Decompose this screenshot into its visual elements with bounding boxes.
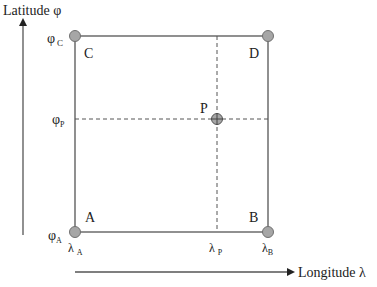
node-d: [263, 31, 274, 42]
phi-a: φA: [48, 228, 62, 245]
lambda-p: λP: [209, 241, 223, 257]
label-p: P: [200, 101, 208, 116]
y-axis-label: Latitude φ: [3, 3, 61, 18]
node-a: [70, 227, 81, 238]
label-a: A: [85, 210, 96, 225]
grid-cell: [75, 36, 268, 232]
label-d: D: [249, 46, 259, 61]
label-c: C: [84, 46, 93, 61]
x-axis-label: Longitude λ: [298, 265, 366, 280]
node-b: [263, 227, 274, 238]
node-c: [70, 31, 81, 42]
lambda-b: λB: [262, 241, 273, 257]
bilinear-interpolation-diagram: Latitude φ Longitude λ C D A B P φC φP φ…: [0, 0, 377, 287]
lambda-a: λA: [68, 241, 83, 257]
phi-c: φC: [47, 31, 63, 48]
phi-p: φP: [52, 112, 65, 129]
label-b: B: [249, 210, 258, 225]
